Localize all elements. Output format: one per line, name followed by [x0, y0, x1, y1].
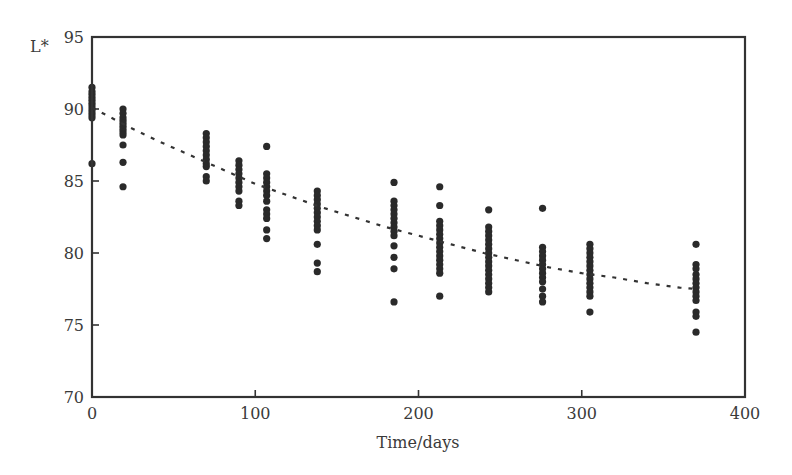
data-point	[263, 226, 270, 233]
data-point	[119, 131, 126, 138]
data-point	[390, 242, 397, 249]
data-point	[263, 198, 270, 205]
y-tick-label: 95	[64, 28, 84, 47]
y-tick-label: 75	[64, 316, 84, 335]
data-point	[436, 202, 443, 209]
x-tick-label: 0	[87, 404, 97, 423]
data-point	[390, 298, 397, 305]
data-point	[539, 298, 546, 305]
data-point	[436, 293, 443, 300]
data-point	[692, 241, 699, 248]
data-point	[119, 183, 126, 190]
data-point	[203, 163, 210, 170]
data-point	[314, 268, 321, 275]
data-point	[539, 278, 546, 285]
data-point	[692, 329, 699, 336]
data-point	[119, 159, 126, 166]
data-point	[314, 226, 321, 233]
data-point	[390, 265, 397, 272]
y-tick-label: 80	[64, 244, 84, 263]
y-tick-label: 90	[64, 100, 84, 119]
data-point	[485, 206, 492, 213]
data-point	[539, 285, 546, 292]
y-tick-label: 70	[64, 388, 84, 407]
y-axis-label: L*	[30, 37, 49, 56]
data-point	[390, 232, 397, 239]
data-point	[436, 270, 443, 277]
plot-frame	[92, 37, 745, 397]
x-tick-label: 200	[403, 404, 434, 423]
data-point	[235, 187, 242, 194]
data-point	[119, 141, 126, 148]
data-points	[88, 84, 699, 336]
data-point	[314, 259, 321, 266]
data-point	[263, 235, 270, 242]
data-point	[314, 241, 321, 248]
x-tick-label: 300	[566, 404, 597, 423]
x-axis-label: Time/days	[377, 433, 460, 452]
data-point	[436, 183, 443, 190]
data-point	[586, 308, 593, 315]
data-point	[692, 297, 699, 304]
data-point	[235, 202, 242, 209]
data-point	[203, 177, 210, 184]
axes: 0100200300400707580859095	[64, 28, 761, 423]
x-tick-label: 400	[730, 404, 761, 423]
chart: 0100200300400707580859095 L* Time/days	[0, 0, 792, 475]
data-point	[692, 313, 699, 320]
x-tick-label: 100	[240, 404, 271, 423]
y-tick-label: 85	[64, 172, 84, 191]
data-point	[539, 205, 546, 212]
data-point	[586, 293, 593, 300]
data-point	[390, 179, 397, 186]
data-point	[390, 254, 397, 261]
data-point	[263, 215, 270, 222]
data-point	[485, 288, 492, 295]
data-point	[263, 143, 270, 150]
